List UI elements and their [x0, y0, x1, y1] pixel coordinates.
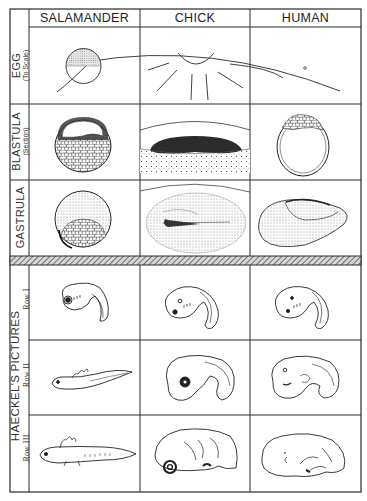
row-label-gastrula-title: GASTRULA [14, 187, 26, 249]
row-label-blastula: BLASTULA (Section) [10, 103, 29, 180]
group-label-haeckels-pictures: HAECKEL'S PICTURES [9, 269, 21, 483]
chick-embryo-row2 [166, 355, 234, 400]
group-label-haeckels-pictures-text: HAECKEL'S PICTURES [9, 311, 21, 441]
row-label-blastula-title: BLASTULA [11, 112, 22, 171]
row-label-egg-subtitle: (To Scale) [22, 50, 29, 82]
row-label-row3-text: Row III [22, 434, 31, 461]
row-label-haeckel-row1: Row I [21, 269, 31, 329]
salamander-embryo-row3 [40, 437, 136, 466]
human-gastrula [259, 200, 348, 247]
human-blastula [277, 115, 329, 176]
row-label-row2-text: Row II [22, 363, 31, 387]
embryo-comparison-figure [0, 0, 367, 501]
row-label-haeckel-row3: Row III [21, 418, 31, 478]
hatched-separator [10, 256, 361, 265]
salamander-embryo-row2 [52, 369, 132, 389]
column-header-chick: CHICK [140, 9, 250, 27]
chick-embryo-row3 [155, 429, 237, 473]
chick-embryo-row1 [165, 287, 218, 329]
human-embryo-row2 [272, 356, 339, 398]
human-embryo-row1 [275, 287, 328, 329]
row-label-egg: EGG (To Scale) [10, 27, 29, 104]
column-header-salamander: SALAMANDER [29, 9, 140, 27]
human-embryo-row3 [262, 434, 345, 477]
row-label-row1-text: Row I [22, 288, 31, 309]
row-label-egg-title: EGG [11, 53, 22, 78]
chick-blastula [140, 122, 250, 174]
salamander-blastula [55, 117, 111, 172]
row-label-blastula-subtitle: (Section) [22, 128, 29, 156]
chick-gastrula [140, 184, 250, 253]
row-label-gastrula: GASTRULA [10, 179, 29, 256]
column-header-human: HUMAN [250, 9, 361, 27]
salamander-embryo-row1 [62, 283, 108, 321]
salamander-egg [66, 49, 101, 84]
row-label-haeckel-row2: Row II [21, 345, 31, 405]
salamander-gastrula [55, 191, 111, 248]
